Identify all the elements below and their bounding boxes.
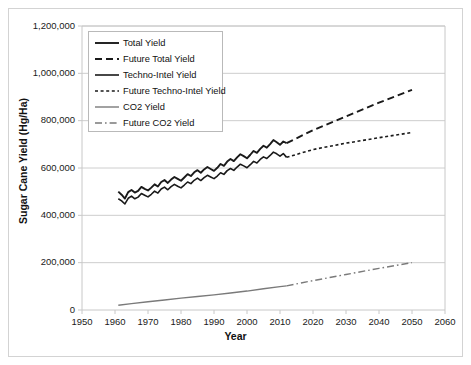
legend-item-label: Total Yield (123, 38, 165, 48)
series-line-co2-yield (118, 286, 286, 305)
y-tick-label: 0 (0, 304, 75, 315)
legend-swatch-icon (94, 68, 120, 82)
x-tick-label: 2060 (425, 316, 465, 327)
y-tick-label: 1,000,000 (0, 67, 75, 78)
chart-legend: Total YieldFuture Total YieldTechno-Inte… (88, 31, 223, 132)
legend-swatch-icon (94, 52, 120, 66)
y-tick-label: 400,000 (0, 209, 75, 220)
legend-swatch-icon (94, 36, 120, 50)
legend-item[interactable]: Total Yield (89, 35, 222, 51)
y-axis-title: Sugar Cane Yield (Hg/Ha) (17, 76, 29, 246)
legend-item[interactable]: Future CO2 Yield (89, 115, 222, 131)
legend-swatch-icon (94, 84, 120, 98)
legend-item-label: CO2 Yield (123, 102, 165, 112)
legend-item[interactable]: CO2 Yield (89, 99, 222, 115)
legend-item[interactable]: Future Total Yield (89, 51, 222, 67)
legend-item-label: Future CO2 Yield (123, 118, 194, 128)
y-tick-label: 1,200,000 (0, 20, 75, 31)
legend-swatch-icon (94, 100, 120, 114)
y-tick-label: 800,000 (0, 114, 75, 125)
series-line-techno-intel-yield (118, 152, 286, 204)
legend-item[interactable]: Future Techno-Intel Yield (89, 83, 222, 99)
legend-item-label: Techno-Intel Yield (123, 70, 196, 80)
y-tick-label: 600,000 (0, 162, 75, 173)
series-line-total-yield (118, 140, 286, 198)
legend-item-label: Future Total Yield (123, 54, 195, 64)
chart-container: 0200,000400,000600,000800,0001,000,0001,… (0, 0, 471, 365)
y-tick-label: 200,000 (0, 256, 75, 267)
legend-item[interactable]: Techno-Intel Yield (89, 67, 222, 83)
series-line-future-co2-yield (287, 263, 412, 286)
legend-swatch-icon (94, 116, 120, 130)
x-axis-title: Year (0, 330, 471, 342)
series-line-future-techno-intel-yield (287, 133, 412, 158)
legend-item-label: Future Techno-Intel Yield (123, 86, 226, 96)
